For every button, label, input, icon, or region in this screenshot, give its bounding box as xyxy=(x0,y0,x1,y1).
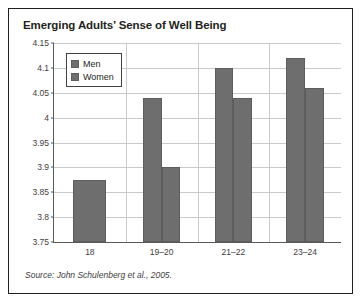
y-axis-tick-mark xyxy=(51,192,54,193)
bar xyxy=(233,98,252,242)
y-axis-tick-label: 3.9 xyxy=(37,162,49,172)
y-axis-tick-mark xyxy=(51,92,54,93)
legend-label-men: Men xyxy=(83,59,101,69)
bar xyxy=(305,88,324,242)
x-axis-tick-label: 18 xyxy=(85,247,94,257)
y-axis-tick-mark xyxy=(51,43,54,44)
plot-area: 4.154.14.0543.953.93.853.83.75 1819–2021… xyxy=(53,43,341,243)
y-axis-tick-label: 4.1 xyxy=(37,63,49,73)
y-axis-tick-label: 3.75 xyxy=(32,237,49,247)
bar xyxy=(286,58,305,242)
legend-item-men: Men xyxy=(71,57,114,70)
source-note: Source: John Schulenberg et al., 2005. xyxy=(25,270,172,280)
y-axis-tick-mark xyxy=(51,167,54,168)
y-axis-tick-label: 4 xyxy=(44,113,49,123)
legend-label-women: Women xyxy=(83,72,114,82)
legend-swatch-women xyxy=(71,73,79,81)
gridline-vertical xyxy=(126,43,127,242)
y-axis-tick-label: 4.05 xyxy=(32,88,49,98)
y-axis-tick-label: 4.15 xyxy=(32,38,49,48)
gridline-vertical xyxy=(198,43,199,242)
bar xyxy=(73,180,106,242)
legend-item-women: Women xyxy=(71,70,114,83)
y-axis-tick-mark xyxy=(51,117,54,118)
x-axis-tick-label: 19–20 xyxy=(150,247,174,257)
chart-legend: Men Women xyxy=(66,53,122,87)
y-axis-tick-label: 3.95 xyxy=(32,138,49,148)
y-axis-tick-mark xyxy=(51,242,54,243)
bar xyxy=(162,167,181,242)
y-axis-tick-mark xyxy=(51,142,54,143)
y-axis-tick-label: 3.85 xyxy=(32,187,49,197)
gridline-vertical xyxy=(269,43,270,242)
bar xyxy=(143,98,162,242)
x-axis-tick-label: 21–22 xyxy=(222,247,246,257)
y-axis-tick-mark xyxy=(51,67,54,68)
y-axis-tick-label: 3.8 xyxy=(37,212,49,222)
x-axis-tick-label: 23–24 xyxy=(293,247,317,257)
chart-figure: Emerging Adults’ Sense of Well Being 4.1… xyxy=(8,8,353,294)
bar xyxy=(215,68,234,242)
legend-swatch-men xyxy=(71,60,79,68)
chart-title: Emerging Adults’ Sense of Well Being xyxy=(23,19,226,31)
y-axis-tick-mark xyxy=(51,217,54,218)
